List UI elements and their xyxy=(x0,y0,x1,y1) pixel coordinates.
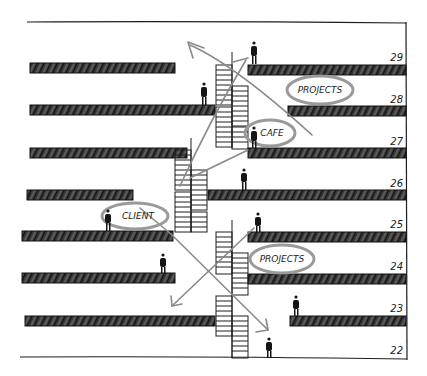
slab-right-26 xyxy=(208,190,406,200)
bubble-projects-upper: PROJECTS xyxy=(287,76,353,104)
arrow-path-cafe-link xyxy=(190,150,248,178)
roof-line xyxy=(27,22,406,23)
stair-flight xyxy=(175,192,207,232)
bubble-label: CLIENT xyxy=(122,211,155,221)
bubble-label: CAFE xyxy=(260,128,284,138)
arrow-path-projects-down-left xyxy=(172,228,254,306)
floor-number-22: 22 xyxy=(390,345,403,356)
left-floor-slabs xyxy=(22,63,215,326)
bubble-label: PROJECTS xyxy=(298,85,343,95)
person-icon xyxy=(251,126,257,148)
floor-number-29: 29 xyxy=(390,52,403,63)
slab-right-28 xyxy=(288,106,406,116)
person-icon xyxy=(160,253,166,273)
floor-number-24: 24 xyxy=(390,261,403,272)
ground-line xyxy=(20,357,407,359)
section-diagram: PROJECTS CAFE CLIENT PROJECTS 29 28 27 2… xyxy=(0,0,427,376)
slab-left-24 xyxy=(22,273,175,283)
person-icon xyxy=(105,209,111,231)
bubble-client: CLIENT xyxy=(102,203,168,229)
slab-left-25 xyxy=(22,231,173,241)
slab-right-25 xyxy=(248,232,406,242)
person-icon xyxy=(241,168,247,190)
floor-number-23: 23 xyxy=(390,303,403,314)
bubble-label: PROJECTS xyxy=(260,254,305,264)
floor-number-26: 26 xyxy=(390,178,403,189)
slab-right-24 xyxy=(248,274,406,284)
person-icon xyxy=(293,295,299,316)
person-icon xyxy=(266,337,272,358)
bubble-projects-lower: PROJECTS xyxy=(250,245,314,273)
slab-left-29 xyxy=(30,63,175,73)
slab-left-23 xyxy=(25,316,215,326)
floor-number-25: 25 xyxy=(390,219,403,230)
person-icon xyxy=(251,41,257,64)
floor-number-28: 28 xyxy=(390,94,403,105)
slab-left-28 xyxy=(30,105,215,115)
slab-right-27 xyxy=(248,148,406,158)
stair-flight xyxy=(216,107,248,149)
person-icon xyxy=(201,82,207,105)
person-icon xyxy=(255,212,261,232)
slab-left-27 xyxy=(30,148,187,158)
floor-numbers: 29 28 27 26 25 24 23 22 xyxy=(390,52,403,356)
slab-right-23 xyxy=(290,316,406,326)
slab-right-29 xyxy=(248,65,406,75)
floor-number-27: 27 xyxy=(390,136,403,147)
arrow-path-cafe-to-top xyxy=(190,45,312,135)
central-stairs xyxy=(175,52,248,358)
slab-left-26 xyxy=(27,190,133,200)
